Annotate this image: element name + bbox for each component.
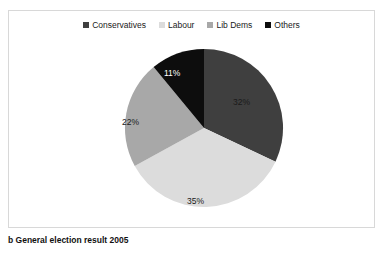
pie-chart-plot-area: 32%35%22%11% xyxy=(9,11,374,227)
pie-chart-svg xyxy=(119,43,289,213)
pie-slice-group xyxy=(125,49,283,207)
pie-slice-value-label: 22% xyxy=(122,118,139,127)
chart-frame: Conservatives Labour Lib Dems Others 32%… xyxy=(8,10,375,228)
pie-slice-value-label: 32% xyxy=(233,98,250,107)
figure-caption: b General election result 2005 xyxy=(8,236,128,245)
pie-slice-value-label: 11% xyxy=(164,69,180,78)
pie-slice-value-label: 35% xyxy=(187,197,204,206)
